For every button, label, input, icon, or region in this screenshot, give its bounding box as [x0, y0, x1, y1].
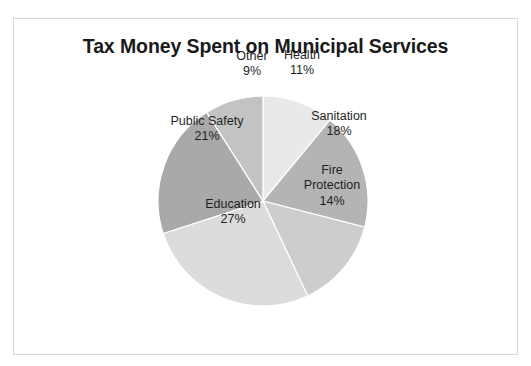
pie-slice-label-education: Education27% [205, 197, 261, 228]
pie-chart: Health11%Sanitation18%FireProtection14%E… [14, 19, 519, 356]
slice-label-name: Sanitation [311, 109, 367, 124]
slice-label-value: 9% [236, 64, 267, 79]
slice-label-value: 27% [205, 212, 261, 227]
slice-label-value: 21% [171, 129, 244, 144]
slice-label-name: Public Safety [171, 114, 244, 129]
slice-label-value: 14% [304, 194, 360, 209]
slice-label-value: 11% [284, 63, 320, 78]
pie-slice-label-fire: FireProtection14% [304, 163, 360, 209]
pie-slice-label-other: Other9% [236, 49, 267, 80]
slice-label-name-line2: Protection [304, 178, 360, 193]
slice-label-name: Fire [304, 163, 360, 178]
pie-slice-label-public-safety: Public Safety21% [171, 114, 244, 145]
slice-label-name: Other [236, 49, 267, 64]
slice-label-name: Education [205, 197, 261, 212]
slice-label-value: 18% [311, 124, 367, 139]
pie-slice-label-health: Health11% [284, 48, 320, 79]
slide-frame: Tax Money Spent on Municipal Services He… [13, 18, 518, 355]
slice-label-name: Health [284, 48, 320, 63]
pie-slice-label-sanitation: Sanitation18% [311, 109, 367, 140]
